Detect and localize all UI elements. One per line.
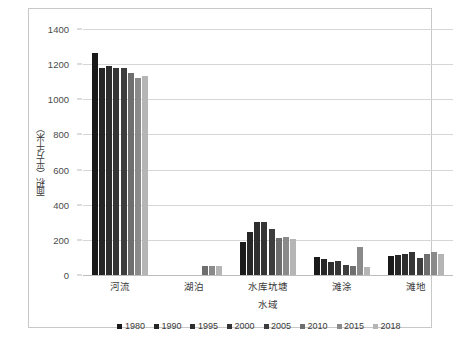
bar[interactable] xyxy=(388,256,394,275)
legend-swatch-icon xyxy=(264,324,269,329)
legend-label: 1980 xyxy=(125,321,145,331)
bar[interactable] xyxy=(247,232,253,275)
bar[interactable] xyxy=(92,53,98,275)
y-axis-tick-mark xyxy=(77,99,82,100)
x-axis-labels: 河流湖泊水库坑塘滩涂滩地 xyxy=(83,279,453,293)
x-axis-category-label: 河流 xyxy=(83,279,157,293)
y-axis-tick-label: 1400 xyxy=(29,24,69,35)
bar[interactable] xyxy=(216,266,222,275)
bar[interactable] xyxy=(438,254,444,275)
legend-item[interactable]: 2015 xyxy=(337,321,365,331)
legend-item[interactable]: 1990 xyxy=(154,321,182,331)
legend-swatch-icon xyxy=(117,324,122,329)
bar[interactable] xyxy=(350,266,356,275)
bar[interactable] xyxy=(261,222,267,275)
bar-group xyxy=(305,29,379,275)
plot-area xyxy=(83,29,453,275)
chart-legend: 19801990199520002005201020152018 xyxy=(57,321,461,331)
y-axis-tick-mark xyxy=(77,275,82,276)
legend-item[interactable]: 2010 xyxy=(300,321,328,331)
bar[interactable] xyxy=(240,242,246,275)
x-axis-category-label: 湖泊 xyxy=(157,279,231,293)
y-axis-tick-label: 200 xyxy=(29,234,69,245)
x-axis-category-label: 水库坑塘 xyxy=(231,279,305,293)
bar[interactable] xyxy=(321,259,327,275)
bar[interactable] xyxy=(269,229,275,275)
y-axis-tick-mark xyxy=(77,239,82,240)
legend-item[interactable]: 2018 xyxy=(373,321,401,331)
y-axis-tick-mark xyxy=(77,169,82,170)
y-axis-tick-label: 600 xyxy=(29,164,69,175)
bar[interactable] xyxy=(276,238,282,275)
x-axis-title: 水域 xyxy=(83,297,453,311)
legend-swatch-icon xyxy=(300,324,305,329)
x-axis-category-label: 滩涂 xyxy=(305,279,379,293)
bar[interactable] xyxy=(328,262,334,275)
y-axis-tick-label: 0 xyxy=(29,270,69,281)
y-axis-tick-label: 400 xyxy=(29,199,69,210)
legend-item[interactable]: 1995 xyxy=(190,321,218,331)
bar[interactable] xyxy=(395,255,401,275)
bar[interactable] xyxy=(254,222,260,275)
bar[interactable] xyxy=(106,66,112,275)
legend-swatch-icon xyxy=(154,324,159,329)
bar[interactable] xyxy=(283,237,289,275)
legend-item[interactable]: 1980 xyxy=(117,321,145,331)
legend-swatch-icon xyxy=(227,324,232,329)
legend-label: 1995 xyxy=(198,321,218,331)
legend-label: 1990 xyxy=(161,321,181,331)
y-axis-tick-mark xyxy=(77,204,82,205)
legend-label: 2010 xyxy=(308,321,328,331)
bar[interactable] xyxy=(357,247,363,275)
legend-label: 2005 xyxy=(271,321,291,331)
chart-frame: 面积（平方千米） 1400120010008006004002000 河流湖泊水… xyxy=(28,8,432,328)
bar[interactable] xyxy=(202,266,208,275)
y-axis-tick-label: 1200 xyxy=(29,59,69,70)
bar[interactable] xyxy=(128,73,134,275)
y-axis-tick-mark xyxy=(77,64,82,65)
y-axis-tick-label: 1000 xyxy=(29,94,69,105)
legend-label: 2018 xyxy=(381,321,401,331)
bar[interactable] xyxy=(142,76,148,275)
bar[interactable] xyxy=(343,265,349,275)
bar[interactable] xyxy=(99,68,105,275)
bar[interactable] xyxy=(431,252,437,275)
bar[interactable] xyxy=(335,261,341,275)
bar[interactable] xyxy=(121,68,127,275)
bar[interactable] xyxy=(290,239,296,275)
legend-swatch-icon xyxy=(373,324,378,329)
axis-baseline xyxy=(83,275,453,276)
bar-group xyxy=(83,29,157,275)
legend-item[interactable]: 2005 xyxy=(264,321,292,331)
y-axis-tick-label: 800 xyxy=(29,129,69,140)
y-axis-tick-mark xyxy=(77,29,82,30)
x-axis-category-label: 滩地 xyxy=(379,279,453,293)
legend-item[interactable]: 2000 xyxy=(227,321,255,331)
legend-label: 2000 xyxy=(234,321,254,331)
legend-swatch-icon xyxy=(337,324,342,329)
legend-swatch-icon xyxy=(190,324,195,329)
bar[interactable] xyxy=(135,78,141,275)
bar[interactable] xyxy=(409,252,415,275)
bar[interactable] xyxy=(314,257,320,275)
bar[interactable] xyxy=(417,258,423,275)
bar[interactable] xyxy=(402,254,408,275)
bar[interactable] xyxy=(113,68,119,275)
y-axis-tick-mark xyxy=(77,134,82,135)
bar[interactable] xyxy=(424,254,430,275)
bar-group xyxy=(157,29,231,275)
legend-label: 2015 xyxy=(344,321,364,331)
bar-groups xyxy=(83,29,453,275)
bar-group xyxy=(231,29,305,275)
bar[interactable] xyxy=(209,266,215,275)
bar-group xyxy=(379,29,453,275)
bar[interactable] xyxy=(364,267,370,275)
